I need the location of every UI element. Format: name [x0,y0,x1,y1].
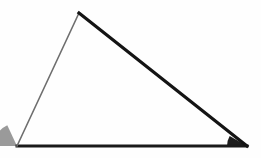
diagram-background [0,0,261,158]
triangle-diagram [0,0,261,158]
figure-canvas [0,0,261,158]
